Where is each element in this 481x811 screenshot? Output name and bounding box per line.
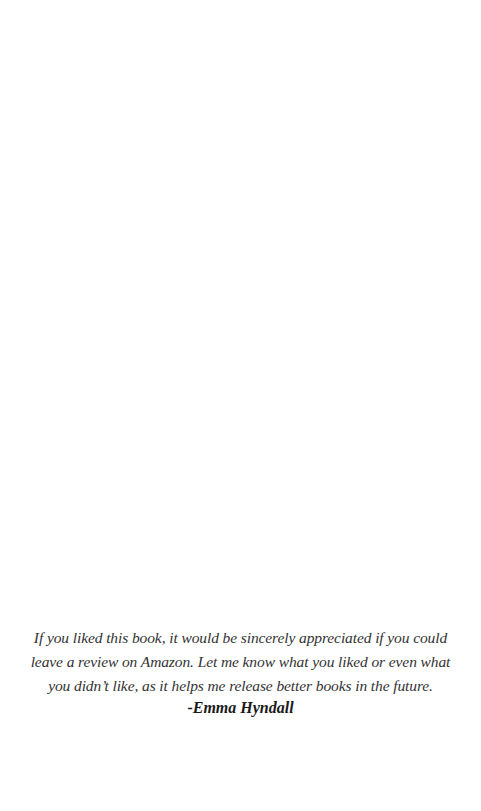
note-line-2: leave a review on Amazon. Let me know wh…: [0, 650, 481, 674]
author-signature: -Emma Hyndall: [0, 698, 481, 718]
review-request-note: If you liked this book, it would be sinc…: [0, 626, 481, 718]
book-page: If you liked this book, it would be sinc…: [0, 0, 481, 811]
note-line-3: you didn’t like, as it helps me release …: [0, 674, 481, 698]
note-line-1: If you liked this book, it would be sinc…: [0, 626, 481, 650]
